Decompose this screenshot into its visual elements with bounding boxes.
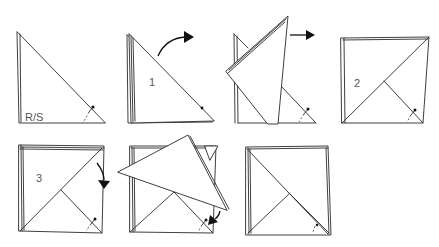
pin-icon <box>205 219 208 222</box>
figure-7-finished-square <box>246 146 331 235</box>
figure-6-folding-flap <box>118 135 229 233</box>
right-arrow-icon <box>290 30 315 40</box>
pin-icon <box>316 224 318 226</box>
figure-1-triangle <box>17 32 105 123</box>
figure-2-stacked-triangle <box>127 31 214 123</box>
pin-icon <box>201 107 204 110</box>
right-side-label: R/S <box>25 112 43 123</box>
step-3-label: 3 <box>36 173 42 184</box>
figure-5-square-step3 <box>19 145 110 233</box>
pin-icon <box>91 105 94 108</box>
step-1-label: 1 <box>149 77 155 88</box>
pin-icon <box>307 108 310 111</box>
folding-diagram <box>0 0 439 247</box>
step-2-label: 2 <box>354 78 360 89</box>
figure-3-lifted-flap <box>226 16 316 124</box>
pin-icon <box>94 218 97 221</box>
pin-icon <box>414 109 417 112</box>
curved-arrow-icon <box>158 31 194 56</box>
